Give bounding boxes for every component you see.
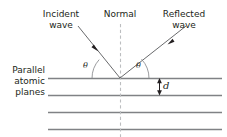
parallel-atomic-planes-label-line2: atomic bbox=[0, 76, 45, 87]
normal-label-line1: Normal bbox=[95, 9, 145, 20]
atomic-planes-group bbox=[48, 79, 222, 130]
incident-wave-label-line2: wave bbox=[32, 20, 90, 31]
theta-incidence-arc bbox=[92, 60, 99, 79]
reflected-wave-label-line2: wave bbox=[152, 20, 216, 31]
incident-ray-arrowhead bbox=[92, 45, 99, 52]
theta-reflection-label: θ bbox=[136, 61, 141, 70]
parallel-atomic-planes-label-line1: Parallel bbox=[0, 65, 45, 76]
normal-label: Normal bbox=[95, 9, 145, 20]
parallel-atomic-planes-label-line3: planes bbox=[0, 87, 45, 98]
reflected-wave-label-line1: Reflected bbox=[152, 9, 216, 20]
incident-wave-label-line1: Incident bbox=[32, 9, 90, 20]
reflected-ray-line bbox=[120, 26, 186, 78]
reflected-wave-label: Reflected wave bbox=[152, 9, 216, 31]
theta-reflection-arc bbox=[142, 59, 150, 78]
theta-incidence-label: θ bbox=[83, 61, 88, 70]
interplanar-spacing-d-label: d bbox=[163, 80, 169, 91]
incident-ray-line bbox=[78, 26, 120, 78]
d-measure-arrowhead-bottom bbox=[157, 90, 162, 95]
parallel-atomic-planes-label: Parallel atomic planes bbox=[0, 65, 45, 98]
bragg-reflection-diagram: Incident wave Normal Reflected wave Para… bbox=[0, 0, 227, 137]
incident-wave-label: Incident wave bbox=[32, 9, 90, 31]
